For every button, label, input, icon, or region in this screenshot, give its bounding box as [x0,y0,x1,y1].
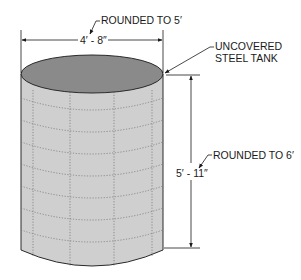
tank-label-line2: STEEL TANK [215,52,278,64]
tank-diagram: 4′ - 8″ ROUNDED TO 5′ UNCOVERED STEEL TA… [0,0,301,280]
tank-top [21,55,163,93]
tank-label-line1: UNCOVERED [215,40,283,52]
height-dimension-text: 5′ - 11″ [176,167,208,179]
width-rounded-text: ROUNDED TO 5′ [101,14,182,26]
height-dimension [164,75,212,248]
height-rounded-text: ROUNDED TO 6′ [213,149,294,161]
tank-label-leader [165,47,214,73]
width-dimension-text: 4′ - 8″ [80,34,107,46]
tank-body [21,74,163,266]
